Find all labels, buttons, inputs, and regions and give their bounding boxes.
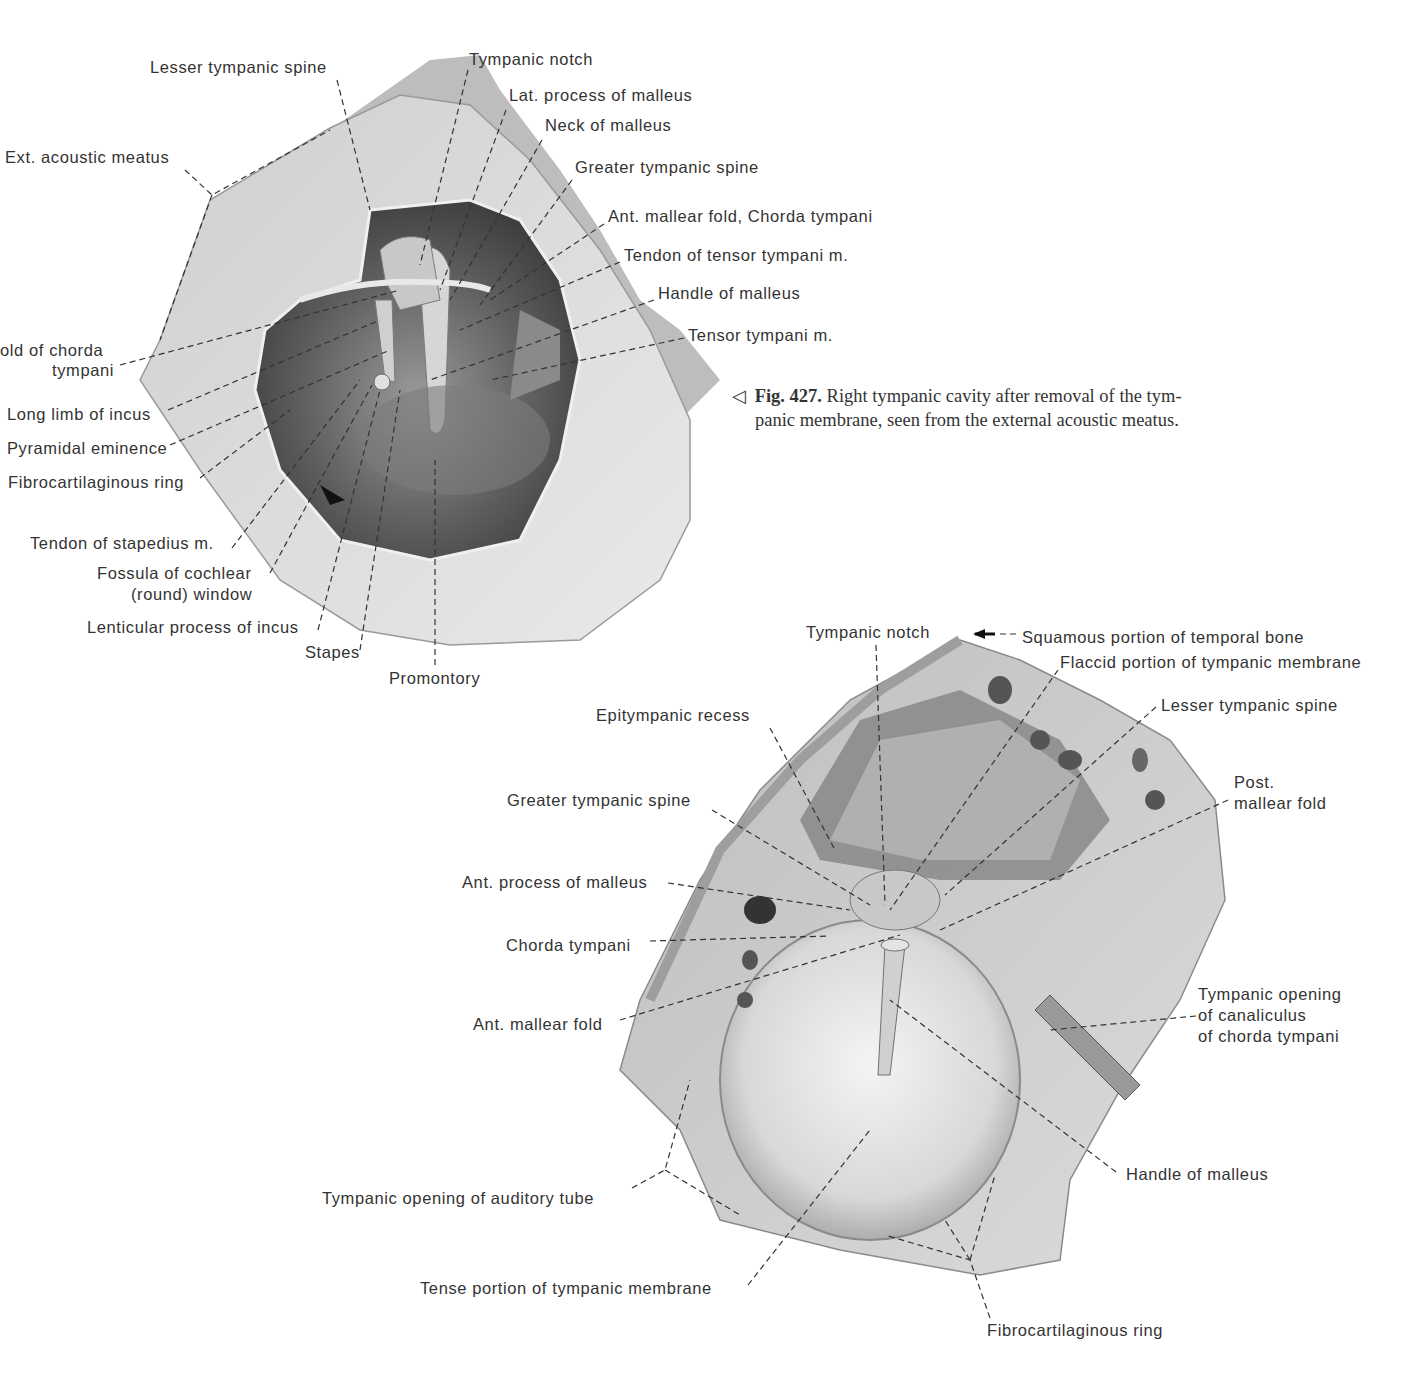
label-tympanic-opening-auditory-tube: Tympanic opening of auditory tube bbox=[322, 1188, 594, 1208]
label-ant-mallear-fold: Ant. mallear fold bbox=[473, 1014, 602, 1034]
label-epitympanic-recess: Epitympanic recess bbox=[596, 705, 750, 725]
label-ext-acoustic-meatus: Ext. acoustic meatus bbox=[5, 147, 169, 167]
label-fossula-cochlear-1: Fossula of cochlear bbox=[97, 563, 251, 583]
label-tendon-stapedius: Tendon of stapedius m. bbox=[30, 533, 214, 553]
caption-line-1: Right tympanic cavity after removal of t… bbox=[827, 386, 1182, 406]
label-greater-tympanic-spine: Greater tympanic spine bbox=[507, 790, 691, 810]
label-tympanic-opening-canaliculus-1: Tympanic opening bbox=[1198, 984, 1342, 1004]
label-tendon-tensor-tympani: Tendon of tensor tympani m. bbox=[624, 245, 848, 265]
label-post-mallear-fold-1: Post. bbox=[1234, 772, 1275, 792]
label-ant-mallear-fold-chorda: Ant. mallear fold, Chorda tympani bbox=[608, 206, 873, 226]
label-handle-malleus: Handle of malleus bbox=[1126, 1164, 1268, 1184]
label-squamous-portion: Squamous portion of temporal bone bbox=[1022, 627, 1304, 647]
label-tympanic-notch: Tympanic notch bbox=[469, 49, 593, 69]
label-lat-process-malleus: Lat. process of malleus bbox=[509, 85, 692, 105]
label-lesser-tympanic-spine: Lesser tympanic spine bbox=[1161, 695, 1338, 715]
label-chorda-tympani: Chorda tympani bbox=[506, 935, 631, 955]
figure-caption: ◁ Fig. 427. Right tympanic cavity after … bbox=[732, 384, 1182, 432]
label-greater-tympanic-spine: Greater tympanic spine bbox=[575, 157, 759, 177]
label-tympanic-notch: Tympanic notch bbox=[806, 622, 930, 642]
label-fossula-cochlear-2: (round) window bbox=[131, 584, 252, 604]
label-fibrocartilaginous-ring: Fibrocartilaginous ring bbox=[8, 472, 184, 492]
label-lenticular-process: Lenticular process of incus bbox=[87, 617, 299, 637]
label-post-mallear-fold-2: mallear fold bbox=[1234, 793, 1327, 813]
label-ant-process-malleus: Ant. process of malleus bbox=[462, 872, 647, 892]
label-lesser-tympanic-spine: Lesser tympanic spine bbox=[150, 57, 327, 77]
label-tensor-tympani: Tensor tympani m. bbox=[688, 325, 833, 345]
caption-pointer-icon: ◁ bbox=[732, 384, 750, 408]
label-fibrocartilaginous-ring: Fibrocartilaginous ring bbox=[987, 1320, 1163, 1340]
top-figure-artwork bbox=[140, 55, 720, 645]
label-flaccid-portion: Flaccid portion of tympanic membrane bbox=[1060, 652, 1361, 672]
label-long-limb-incus: Long limb of incus bbox=[7, 404, 151, 424]
label-handle-malleus: Handle of malleus bbox=[658, 283, 800, 303]
label-tympanic-opening-canaliculus-2: of canaliculus bbox=[1198, 1005, 1306, 1025]
label-stapes: Stapes bbox=[305, 642, 360, 662]
label-pyramidal-eminence: Pyramidal eminence bbox=[7, 438, 167, 458]
label-fold-chorda-2: tympani bbox=[52, 360, 114, 380]
label-tense-portion: Tense portion of tympanic membrane bbox=[420, 1278, 712, 1298]
label-neck-malleus: Neck of malleus bbox=[545, 115, 671, 135]
label-tympanic-opening-canaliculus-3: of chorda tympani bbox=[1198, 1026, 1339, 1046]
caption-line-2: panic membrane, seen from the external a… bbox=[732, 408, 1182, 432]
figure-number: Fig. 427. bbox=[755, 386, 822, 406]
label-promontory: Promontory bbox=[389, 668, 480, 688]
label-fold-chorda-1: old of chorda bbox=[0, 340, 103, 360]
